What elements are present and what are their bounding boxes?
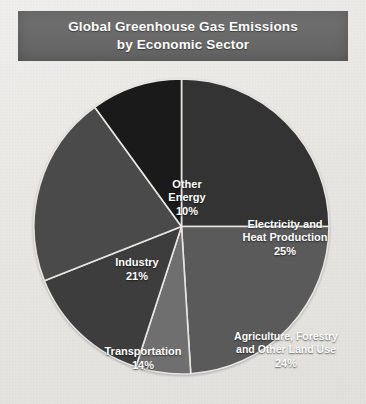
pie-svg	[33, 78, 330, 375]
chart-title-banner: Global Greenhouse Gas Emissions by Econo…	[18, 11, 348, 61]
pie-chart-figure: Global Greenhouse Gas Emissions by Econo…	[0, 0, 366, 404]
chart-title-line-2: by Economic Sector	[117, 36, 250, 54]
chart-title-line-1: Global Greenhouse Gas Emissions	[68, 18, 298, 36]
pie-slice	[182, 79, 330, 227]
pie-slice	[182, 227, 330, 374]
pie-chart: Electricity and Heat Production 25% Agri…	[33, 78, 330, 375]
